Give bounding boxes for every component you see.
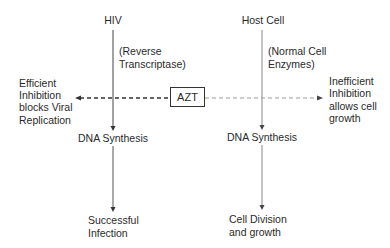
host-outcome-line1: Cell Division bbox=[229, 213, 287, 226]
arrowhead-down-icon bbox=[260, 205, 265, 210]
left-effect-line2: Inhibition bbox=[19, 89, 61, 102]
right-effect-line4: growth bbox=[329, 112, 361, 125]
hiv-outcome-line1: Successful bbox=[88, 214, 139, 227]
arrowhead-down-icon bbox=[111, 207, 116, 212]
left-effect-line1: Efficient bbox=[19, 77, 56, 90]
hiv-dna-synthesis: DNA Synthesis bbox=[78, 132, 148, 145]
hiv-enzyme-line1: (Reverse bbox=[119, 45, 162, 58]
left-effect-line4: Replication bbox=[19, 114, 71, 127]
hiv-outcome-line2: Infection bbox=[88, 227, 128, 240]
host-cell-title: Host Cell bbox=[242, 14, 285, 27]
right-effect-line2: Inhibition bbox=[329, 87, 371, 100]
azt-box: AZT bbox=[170, 87, 205, 107]
left-effect-line3: blocks Viral bbox=[19, 101, 73, 114]
right-effect-line1: Inefficient bbox=[329, 75, 374, 88]
arrowhead-down-icon bbox=[111, 126, 116, 131]
hiv-enzyme-line2: Transcriptase) bbox=[119, 58, 186, 71]
arrowhead-down-icon bbox=[260, 125, 265, 130]
host-enzyme-line1: (Normal Cell bbox=[268, 45, 326, 58]
host-outcome-line2: and growth bbox=[229, 226, 281, 239]
azt-label: AZT bbox=[177, 91, 198, 103]
right-effect-line3: allows cell bbox=[329, 100, 377, 113]
arrowhead-right-icon bbox=[317, 96, 323, 101]
arrowhead-left-icon bbox=[75, 96, 81, 101]
hiv-title: HIV bbox=[104, 14, 122, 27]
host-dna-synthesis: DNA Synthesis bbox=[227, 131, 297, 144]
host-enzyme-line2: Enzymes) bbox=[268, 58, 315, 71]
